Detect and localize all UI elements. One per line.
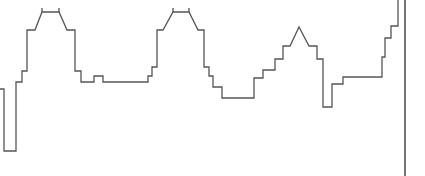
peak-ticks [42,8,189,12]
skyline-diagram [0,0,425,176]
waveform-line [0,0,398,151]
